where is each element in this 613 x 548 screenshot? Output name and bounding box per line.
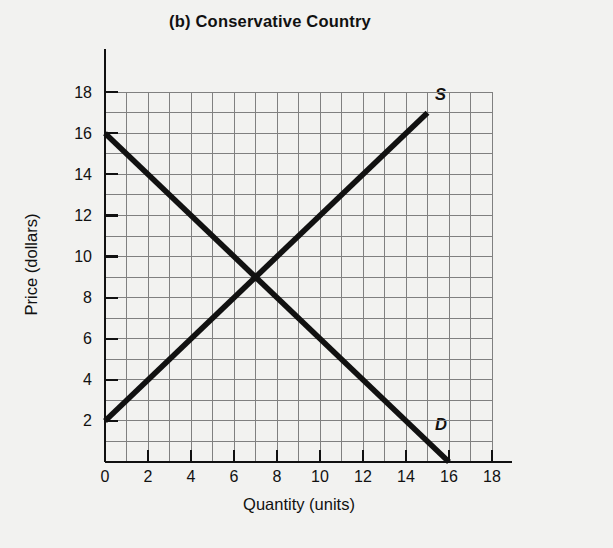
grid-lines	[105, 92, 492, 462]
figure-container: (b) Conservative Country Price (dollars)…	[0, 0, 613, 548]
supply-curve	[105, 113, 428, 421]
plot-area	[0, 0, 613, 548]
